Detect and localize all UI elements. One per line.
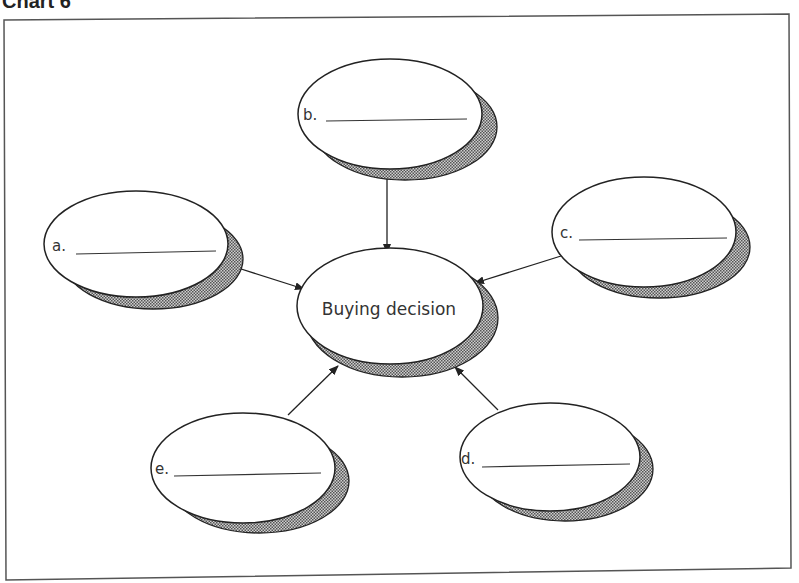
diagram-canvas: b. a. c. Buying decision e. d. <box>0 0 799 583</box>
node-c-label: c. <box>560 224 573 242</box>
arrow-a-to-center <box>238 268 304 289</box>
node-b-label: b. <box>303 106 317 124</box>
node-d: d. <box>460 403 653 521</box>
node-c: c. <box>552 177 750 298</box>
node-a-ellipse <box>44 191 228 297</box>
node-e-label: e. <box>155 460 169 478</box>
arrow-c-to-center <box>475 256 561 283</box>
node-b-ellipse <box>298 59 482 169</box>
node-d-ellipse <box>460 403 640 511</box>
node-b: b. <box>298 59 497 180</box>
node-c-ellipse <box>552 177 736 287</box>
center-node: Buying decision <box>297 248 498 377</box>
node-e: e. <box>151 413 349 533</box>
node-d-label: d. <box>461 450 475 468</box>
center-node-label: Buying decision <box>322 299 456 319</box>
arrow-e-to-center <box>288 366 338 415</box>
node-e-ellipse <box>151 413 335 523</box>
node-a-label: a. <box>52 237 66 255</box>
arrow-d-to-center <box>455 367 498 410</box>
node-a: a. <box>44 191 243 309</box>
